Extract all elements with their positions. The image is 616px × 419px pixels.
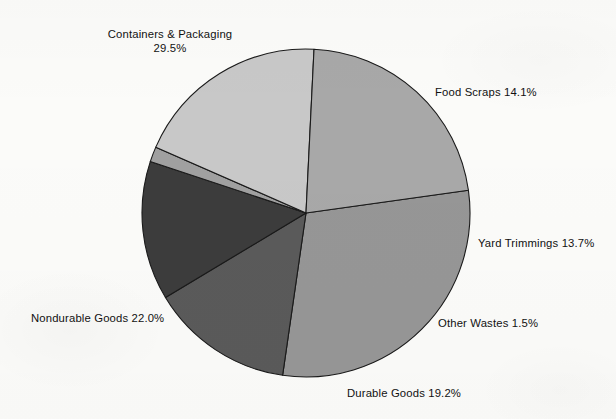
slice-label-yard-trimmings-text: Yard Trimmings 13.7% — [478, 237, 594, 249]
slice-label-containers-packaging-value: 29.5% — [100, 41, 240, 55]
slice-label-nondurable-goods: Nondurable Goods 22.0% — [31, 311, 164, 325]
slice-label-other-wastes-text: Other Wastes 1.5% — [438, 317, 538, 329]
pie-slice-nondurable-goods — [306, 49, 468, 213]
slice-label-yard-trimmings: Yard Trimmings 13.7% — [478, 236, 594, 250]
pie-slice-containers-and-packaging — [283, 190, 470, 377]
pie-chart-canvas — [0, 0, 616, 419]
slice-label-containers-packaging: Containers & Packaging 29.5% — [100, 27, 240, 55]
pie-slice-group — [142, 49, 470, 377]
slice-label-food-scraps-text: Food Scraps 14.1% — [435, 86, 537, 98]
pie-chart-figure: Containers & Packaging 29.5% Food Scraps… — [0, 0, 616, 419]
slice-label-other-wastes: Other Wastes 1.5% — [438, 316, 538, 330]
slice-label-durable-goods: Durable Goods 19.2% — [347, 386, 461, 400]
slice-label-nondurable-goods-text: Nondurable Goods 22.0% — [31, 312, 164, 324]
slice-label-durable-goods-text: Durable Goods 19.2% — [347, 387, 461, 399]
slice-label-food-scraps: Food Scraps 14.1% — [435, 85, 537, 99]
slice-label-containers-packaging-name: Containers & Packaging — [108, 28, 233, 40]
